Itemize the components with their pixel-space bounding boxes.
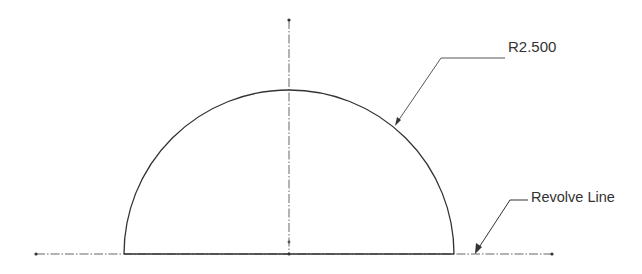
arc-center-point [288,253,291,256]
centerline-endpoint-right [550,252,553,255]
centerline-endpoint-left [34,252,37,255]
centerline-endpoint-top [287,18,290,21]
radius-dimension-leader [396,58,505,124]
revolve-note-leader [476,200,528,252]
radius-dimension-label[interactable]: R2.500 [508,38,556,55]
revolve-line-note[interactable]: Revolve Line [531,189,615,205]
centerline-midpoint [288,241,291,244]
